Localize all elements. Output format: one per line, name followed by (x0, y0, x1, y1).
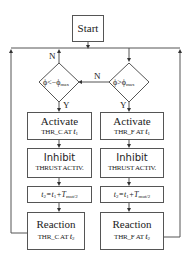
left-reaction-detail-text: THR_C AT (38, 233, 68, 241)
right-reaction-tsub: 2 (148, 236, 150, 241)
left-reaction-detail: THR_C AT t2 (28, 232, 84, 243)
left-activate-box: Activate THR_C AT t1 (27, 112, 92, 140)
left-reaction-title: Reaction (28, 218, 84, 230)
right-timing-box: t2=t1+Tmut/2 (100, 186, 164, 203)
right-inhibit-box: Inhibit THRUST ACTIV. (100, 148, 164, 178)
left-inhibit-detail: THRUST ACTIV. (28, 164, 91, 173)
right-reaction-title: Reaction (101, 218, 163, 230)
decision-left: ϕ<−ϕmax (43, 78, 69, 89)
decision-right-sub: max (126, 82, 135, 87)
right-reaction-detail: THR_F AT t2 (101, 232, 163, 243)
start-node: Start (72, 15, 104, 42)
decision-right-text: ϕ>ϕ (113, 78, 126, 87)
left-reaction-box: Reaction THR_C AT t2 (27, 212, 85, 250)
decision-left-sub: max (60, 82, 69, 87)
right-activate-detail-text: THR_F AT (114, 128, 144, 136)
left-inhibit-box: Inhibit THRUST ACTIV. (27, 148, 92, 178)
start-label: Start (78, 22, 99, 34)
right-inhibit-detail: THRUST ACTIV. (101, 164, 163, 173)
right-activate-detail: THR_F AT t1 (101, 127, 163, 138)
edge-label-n-mid: N (94, 72, 101, 81)
left-timing-psub: mut/2 (66, 194, 78, 199)
left-activate-title: Activate (28, 115, 91, 127)
right-activate-box: Activate THR_F AT t1 (100, 112, 164, 140)
right-timing-psub: mut/2 (139, 194, 151, 199)
left-activate-detail: THR_C AT t1 (28, 127, 91, 138)
edge-label-n-left: N (49, 52, 56, 61)
left-timing-box: t2=t1+Tmut/2 (27, 186, 92, 203)
decision-left-text: ϕ<−ϕ (43, 78, 60, 87)
left-inhibit-title: Inhibit (28, 152, 91, 164)
edge-label-y-left: Y (63, 101, 70, 110)
right-timing-plus: +T (129, 190, 139, 199)
right-timing-mid: =t (119, 190, 127, 199)
left-activate-tsub: 1 (75, 131, 77, 136)
left-timing-mid: =t (46, 190, 54, 199)
right-reaction-detail-text: THR_F AT (114, 233, 144, 241)
right-reaction-box: Reaction THR_F AT t2 (100, 212, 164, 250)
decision-right: ϕ>ϕmax (113, 78, 135, 89)
left-activate-detail-text: THR_C AT (41, 128, 71, 136)
left-reaction-tsub: 2 (72, 236, 74, 241)
edge-label-y-right: Y (120, 101, 127, 110)
left-timing-plus: +T (56, 190, 66, 199)
right-activate-tsub: 1 (148, 131, 150, 136)
right-inhibit-title: Inhibit (101, 152, 163, 164)
right-activate-title: Activate (101, 115, 163, 127)
